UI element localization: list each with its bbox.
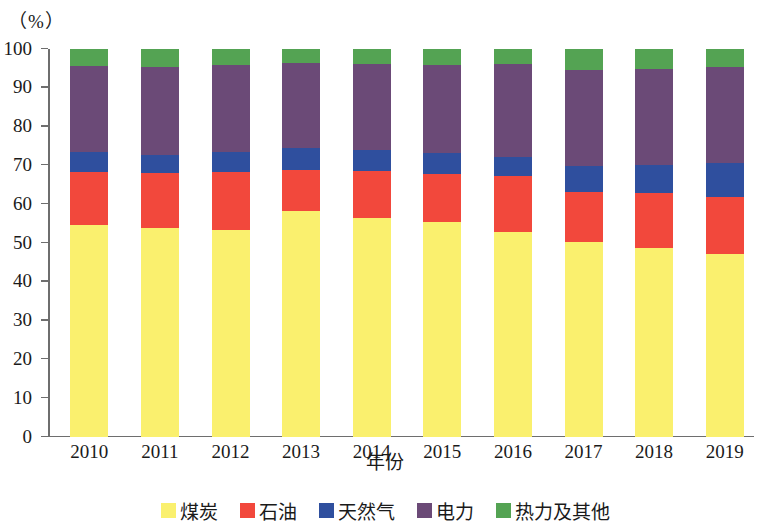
bar-segment xyxy=(70,172,108,225)
bar-group: 2018 xyxy=(635,49,673,437)
bar-segment xyxy=(423,174,461,222)
bar-segment xyxy=(635,69,673,165)
bar-segment xyxy=(141,67,179,155)
bar-segment xyxy=(706,49,744,67)
bar-segment xyxy=(282,148,320,170)
bar-group: 2019 xyxy=(706,49,744,437)
y-axis-tick-label: 20 xyxy=(13,348,32,367)
legend-item[interactable]: 天然气 xyxy=(319,497,395,524)
legend-item[interactable]: 石油 xyxy=(240,497,297,524)
bar-segment xyxy=(635,49,673,69)
bar-segment xyxy=(494,157,532,176)
y-axis-tick: 10 xyxy=(41,397,48,399)
bar-segment xyxy=(565,49,603,70)
bar-segment xyxy=(282,49,320,63)
y-axis-tick: 30 xyxy=(41,319,48,321)
bar-segment xyxy=(353,49,391,64)
y-axis-unit-label: （%） xyxy=(8,6,65,33)
y-axis-tick-label: 30 xyxy=(13,310,32,329)
y-axis-tick-label: 60 xyxy=(13,193,32,212)
y-axis-tick-label: 50 xyxy=(13,232,32,251)
legend-swatch-icon xyxy=(496,503,511,518)
bar-segment xyxy=(70,49,108,66)
bar-group: 2010 xyxy=(70,49,108,437)
bar-segment xyxy=(282,211,320,437)
legend-item[interactable]: 煤炭 xyxy=(161,497,218,524)
bar-segment xyxy=(423,65,461,153)
bar-segment xyxy=(423,222,461,437)
bar-segment xyxy=(494,49,532,64)
bar-group: 2013 xyxy=(282,49,320,437)
bar-segment xyxy=(141,228,179,437)
bar-segment xyxy=(565,192,603,242)
bar-segment xyxy=(635,248,673,437)
bar-segment xyxy=(706,163,744,197)
bar-segment xyxy=(141,155,179,173)
bar-segment xyxy=(70,152,108,172)
bar-segment xyxy=(282,63,320,148)
bar-group: 2016 xyxy=(494,49,532,437)
y-axis-tick: 20 xyxy=(41,358,48,360)
legend-item-label: 热力及其他 xyxy=(515,497,610,524)
bar-segment xyxy=(353,64,391,150)
legend-swatch-icon xyxy=(417,503,432,518)
bar-segment xyxy=(353,150,391,171)
bar-segment xyxy=(565,242,603,437)
bar-segment xyxy=(70,225,108,437)
bar-segment xyxy=(353,218,391,437)
y-axis-tick-label: 10 xyxy=(13,387,32,406)
bar-series-container: 2010201120122013201420152016201720182019 xyxy=(48,49,754,437)
bar-segment xyxy=(423,49,461,65)
bar-group: 2017 xyxy=(565,49,603,437)
y-axis-tick: 0 xyxy=(41,436,48,438)
bar-segment xyxy=(212,230,250,437)
bar-segment xyxy=(706,67,744,163)
legend-swatch-icon xyxy=(240,503,255,518)
bar-segment xyxy=(565,166,603,192)
y-axis-tick-label: 40 xyxy=(13,271,32,290)
y-axis-tick: 80 xyxy=(41,125,48,127)
y-axis-tick: 70 xyxy=(41,164,48,166)
legend-swatch-icon xyxy=(319,503,334,518)
bar-segment xyxy=(70,66,108,152)
bar-segment xyxy=(494,232,532,437)
bar-segment xyxy=(212,172,250,230)
bar-group: 2012 xyxy=(212,49,250,437)
y-axis-tick: 90 xyxy=(41,86,48,88)
y-axis-tick-label: 70 xyxy=(13,154,32,173)
y-axis-tick-label: 0 xyxy=(23,426,33,445)
y-axis-tick-label: 80 xyxy=(13,116,32,135)
legend-item[interactable]: 热力及其他 xyxy=(496,497,610,524)
bar-segment xyxy=(212,49,250,65)
legend-swatch-icon xyxy=(161,503,176,518)
y-axis-tick: 60 xyxy=(41,203,48,205)
bar-group: 2015 xyxy=(423,49,461,437)
y-axis-tick-label: 100 xyxy=(4,38,33,57)
bar-segment xyxy=(635,165,673,193)
bar-segment xyxy=(565,70,603,166)
legend-item[interactable]: 电力 xyxy=(417,497,474,524)
y-axis-tick: 40 xyxy=(41,280,48,282)
y-axis-tick: 50 xyxy=(41,242,48,244)
bar-segment xyxy=(141,173,179,228)
plot-area: 0102030405060708090100 20102011201220132… xyxy=(48,49,754,437)
bar-segment xyxy=(212,152,250,172)
bar-segment xyxy=(212,65,250,152)
y-axis-tick-label: 90 xyxy=(13,77,32,96)
x-axis-title: 年份 xyxy=(0,447,770,474)
bar-segment xyxy=(282,170,320,211)
legend-item-label: 煤炭 xyxy=(180,497,218,524)
legend-item-label: 电力 xyxy=(436,497,474,524)
bar-segment xyxy=(635,193,673,248)
chart-legend: 煤炭石油天然气电力热力及其他 xyxy=(0,497,770,524)
bar-group: 2011 xyxy=(141,49,179,437)
bar-segment xyxy=(141,49,179,67)
bar-group: 2014 xyxy=(353,49,391,437)
bar-segment xyxy=(353,171,391,218)
bar-segment xyxy=(494,176,532,232)
bar-segment xyxy=(494,64,532,157)
stacked-bar-chart: （%） 0102030405060708090100 2010201120122… xyxy=(0,0,770,524)
bar-segment xyxy=(706,197,744,254)
legend-item-label: 天然气 xyxy=(338,497,395,524)
legend-item-label: 石油 xyxy=(259,497,297,524)
